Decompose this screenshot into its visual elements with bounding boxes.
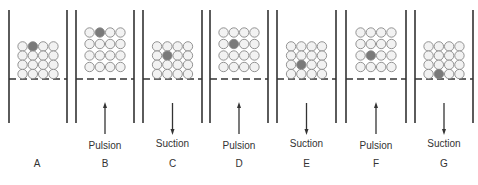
bed-particle xyxy=(434,42,443,51)
bed-particle xyxy=(424,60,433,69)
bed-particle xyxy=(85,62,94,71)
bed-particle xyxy=(444,60,453,69)
bed-particle xyxy=(229,51,238,60)
bed-particle xyxy=(38,42,47,51)
bed-particle xyxy=(455,60,464,69)
bed-particle xyxy=(286,69,295,78)
bed-particle xyxy=(387,51,396,60)
stroke-label-b: Pulsion xyxy=(75,140,135,151)
bed-particle xyxy=(85,51,94,60)
bed-particle xyxy=(317,69,326,78)
panel-letter-c: C xyxy=(163,158,183,169)
bed-particle xyxy=(95,51,104,60)
bed-particle xyxy=(250,39,259,48)
stroke-label-g: Suction xyxy=(414,138,474,149)
bed-particle xyxy=(38,69,47,78)
bed-particle xyxy=(116,62,125,71)
bed-particle xyxy=(356,62,365,71)
bed-particle xyxy=(239,39,248,48)
tracer-particle xyxy=(95,28,104,37)
bed-particle xyxy=(455,69,464,78)
bed-particle xyxy=(105,62,114,71)
arrow-down-icon xyxy=(305,129,309,135)
stroke-label-f: Pulsion xyxy=(346,140,406,151)
bed-particle xyxy=(173,51,182,60)
bed-particle xyxy=(455,51,464,60)
bed-particle xyxy=(163,42,172,51)
bed-particle xyxy=(317,60,326,69)
bed-particle xyxy=(444,51,453,60)
bed-particle xyxy=(18,51,27,60)
bed-particle xyxy=(116,51,125,60)
bed-particle xyxy=(105,39,114,48)
bed-particle xyxy=(85,28,94,37)
bed-particle xyxy=(424,69,433,78)
bed-particle xyxy=(444,42,453,51)
arrow-up-icon xyxy=(374,102,378,108)
bed-particle xyxy=(286,51,295,60)
bed-particle xyxy=(307,60,316,69)
bed-particle xyxy=(28,69,37,78)
bed-particle xyxy=(444,69,453,78)
bed-particle xyxy=(387,62,396,71)
bed-particle xyxy=(387,39,396,48)
tracer-particle xyxy=(366,51,375,60)
bed-particle xyxy=(183,60,192,69)
bed-particle xyxy=(28,51,37,60)
bed-particle xyxy=(152,42,161,51)
bed-particle xyxy=(152,60,161,69)
bed-particle xyxy=(173,60,182,69)
bed-particle xyxy=(356,51,365,60)
bed-particle xyxy=(116,39,125,48)
bed-particle xyxy=(307,51,316,60)
bed-particle xyxy=(366,62,375,71)
bed-particle xyxy=(18,60,27,69)
bed-particle xyxy=(229,62,238,71)
bed-particle xyxy=(286,42,295,51)
bed-particle xyxy=(49,69,58,78)
bed-particle xyxy=(219,62,228,71)
bed-particle xyxy=(173,42,182,51)
stroke-label-e: Suction xyxy=(277,138,337,149)
bed-particle xyxy=(317,42,326,51)
stroke-label-c: Suction xyxy=(143,138,203,149)
bed-particle xyxy=(116,28,125,37)
bed-particle xyxy=(387,28,396,37)
stroke-label-d: Pulsion xyxy=(209,140,269,151)
panel-letter-d: D xyxy=(229,158,249,169)
bed-particle xyxy=(307,69,316,78)
tracer-particle xyxy=(297,60,306,69)
bed-particle xyxy=(376,39,385,48)
bed-particle xyxy=(152,69,161,78)
bed-particle xyxy=(239,51,248,60)
bed-particle xyxy=(376,28,385,37)
bed-particle xyxy=(297,51,306,60)
bed-particle xyxy=(18,42,27,51)
panel-letter-b: B xyxy=(95,158,115,169)
tracer-particle xyxy=(434,69,443,78)
bed-particle xyxy=(49,42,58,51)
bed-particle xyxy=(376,62,385,71)
bed-particle xyxy=(317,51,326,60)
bed-particle xyxy=(434,51,443,60)
bed-particle xyxy=(366,39,375,48)
bed-particle xyxy=(356,28,365,37)
tracer-particle xyxy=(163,51,172,60)
bed-particle xyxy=(219,39,228,48)
panel-letter-e: E xyxy=(297,158,317,169)
tracer-particle xyxy=(28,42,37,51)
panel-letter-a: A xyxy=(27,158,47,169)
bed-particle xyxy=(38,51,47,60)
bed-particle xyxy=(297,69,306,78)
bed-particle xyxy=(152,51,161,60)
bed-particle xyxy=(173,69,182,78)
bed-particle xyxy=(183,69,192,78)
bed-particle xyxy=(49,60,58,69)
bed-particle xyxy=(250,28,259,37)
bed-particle xyxy=(105,51,114,60)
bed-particle xyxy=(95,62,104,71)
bed-particle xyxy=(239,28,248,37)
bed-particle xyxy=(424,42,433,51)
bed-particle xyxy=(286,60,295,69)
bed-particle xyxy=(250,51,259,60)
